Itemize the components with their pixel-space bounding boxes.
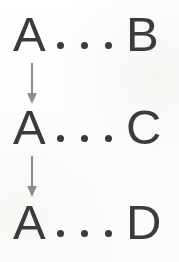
row-1-ellipsis <box>57 41 119 49</box>
row-2-ellipsis <box>57 134 119 142</box>
ellipsis-dot <box>105 135 112 142</box>
row-3-right-symbol: D <box>126 200 161 244</box>
row-1-right-symbol: B <box>126 12 159 56</box>
rule-row-1: A B <box>0 12 179 56</box>
ellipsis-dot <box>105 42 112 49</box>
down-arrow-icon <box>23 155 41 198</box>
row-3-ellipsis <box>57 229 119 237</box>
diagram-canvas: A B A C A <box>0 0 179 262</box>
ellipsis-dot <box>81 42 88 49</box>
row-3-left-symbol: A <box>13 200 46 244</box>
ellipsis-dot <box>57 42 64 49</box>
ellipsis-dot <box>81 135 88 142</box>
down-arrow-icon <box>23 62 41 105</box>
ellipsis-dot <box>81 230 88 237</box>
row-2-right-symbol: C <box>126 105 161 149</box>
ellipsis-dot <box>57 230 64 237</box>
rule-row-3: A D <box>0 200 179 244</box>
row-2-left-symbol: A <box>13 105 46 149</box>
row-1-left-symbol: A <box>13 12 46 56</box>
rule-row-2: A C <box>0 105 179 149</box>
ellipsis-dot <box>57 135 64 142</box>
ellipsis-dot <box>105 230 112 237</box>
